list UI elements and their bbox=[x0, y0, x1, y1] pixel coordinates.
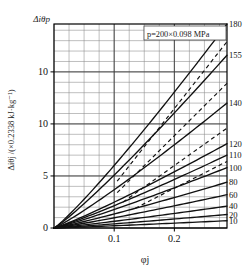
curve-label-155: 155 bbox=[229, 50, 242, 60]
x-tick-label-0.2: 0.2 bbox=[168, 233, 181, 244]
curve-label-120: 120 bbox=[229, 139, 242, 149]
curve-label-140: 140 bbox=[229, 98, 242, 108]
y-axis-corner-label: Δiθp bbox=[32, 14, 50, 24]
chart-canvas: 0.10.2 051010 18015514012011010080604020… bbox=[0, 0, 250, 269]
curve-label-80: 80 bbox=[229, 177, 238, 187]
curve-label-110: 110 bbox=[229, 150, 242, 160]
y-tick-label-2: 10 bbox=[38, 118, 48, 129]
curve-label-100: 100 bbox=[229, 163, 242, 173]
x-tick-label-0.1: 0.1 bbox=[108, 233, 121, 244]
curve-label-10: 10 bbox=[229, 216, 238, 226]
pressure-annotation: p=200×0.098 MPa bbox=[144, 26, 226, 40]
y-tick-label-0: 0 bbox=[43, 222, 48, 233]
y-axis-title: Δiθj /(×0.2338 kJ·kg⁻¹) bbox=[6, 89, 16, 170]
y-tick-label-3: 10 bbox=[38, 66, 48, 77]
curve-label-60: 60 bbox=[229, 190, 238, 200]
annotation-label: p=200×0.098 MPa bbox=[147, 30, 210, 39]
y-tick-label-1: 5 bbox=[43, 170, 48, 181]
x-axis-title: φj bbox=[141, 254, 150, 265]
chart-figure: 0.10.2 051010 18015514012011010080604020… bbox=[0, 0, 250, 269]
curve-label-180: 180 bbox=[229, 19, 242, 29]
